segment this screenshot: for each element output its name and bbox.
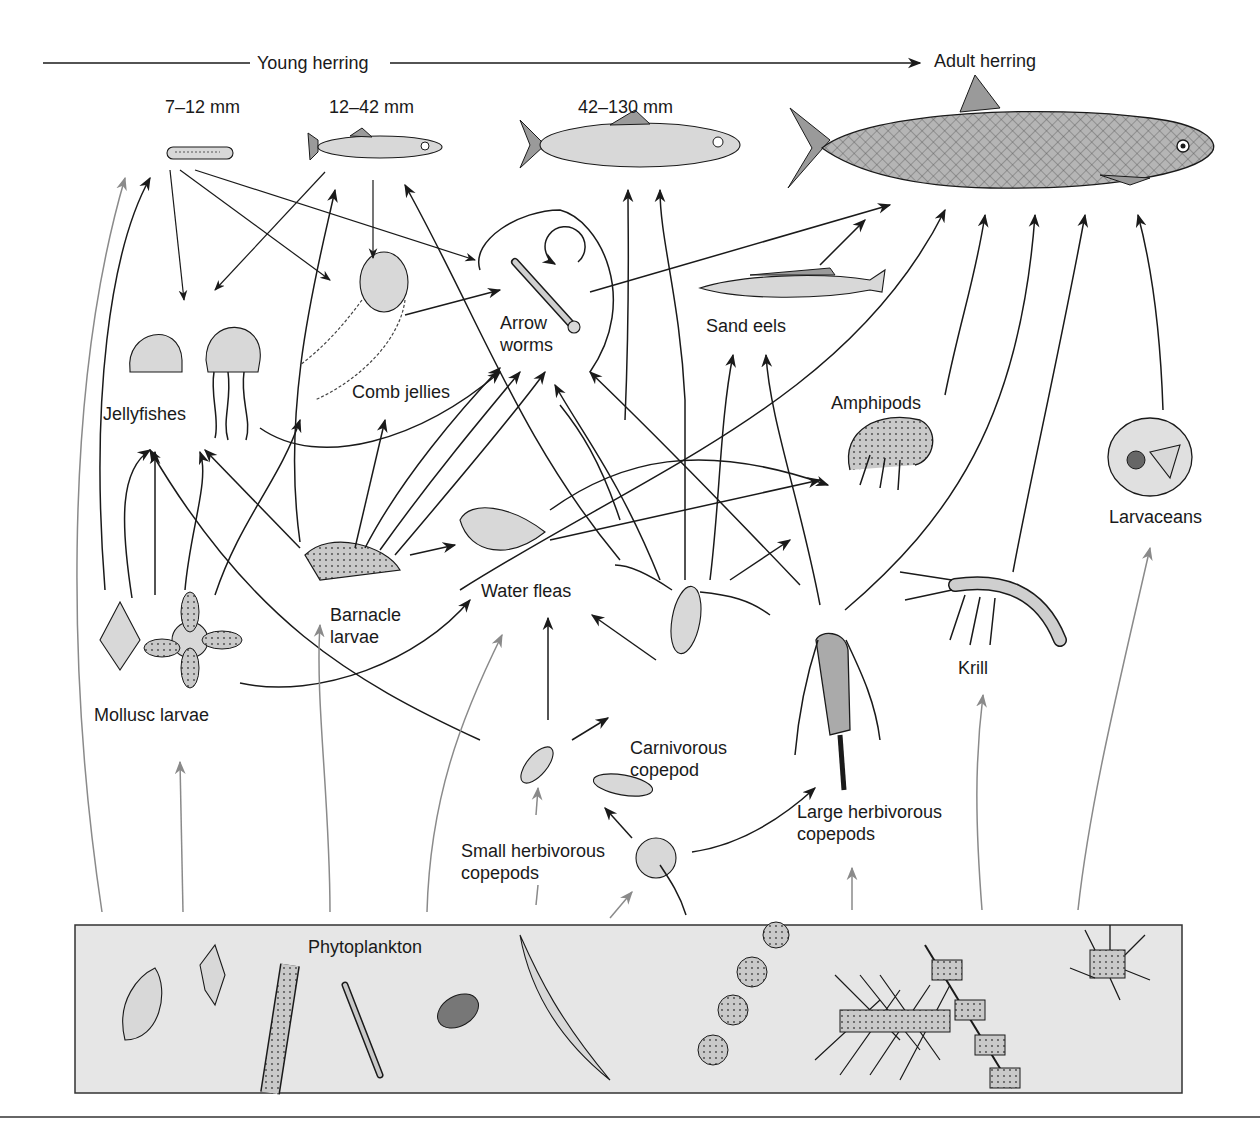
barnacle-larvae-label: Barnacle larvae — [330, 604, 401, 648]
small-herbivorous-copepods-label: Small herbivorous copepods — [461, 840, 605, 884]
stage-label-7-12mm: 7–12 mm — [165, 96, 240, 118]
carnivorous-copepod-icon — [615, 565, 770, 656]
phytoplankton-label: Phytoplankton — [308, 936, 422, 958]
barnacle-larva-icon — [305, 542, 400, 580]
larvaceans-label: Larvaceans — [1109, 506, 1202, 528]
comb-jellies-label: Comb jellies — [352, 381, 450, 403]
phytoplankton-panel — [75, 922, 1182, 1093]
stage-label-42-130mm: 42–130 mm — [578, 96, 673, 118]
amphipods-label: Amphipods — [831, 392, 921, 414]
food-web-graphics — [0, 0, 1260, 1138]
adult-herring-icon — [788, 75, 1214, 188]
larvacean-icon — [1108, 418, 1192, 496]
stage-label-12-42mm: 12–42 mm — [329, 96, 414, 118]
jellyfishes-label: Jellyfishes — [103, 403, 186, 425]
dinoflagellate-icon — [636, 838, 686, 915]
sand-eel-icon — [700, 268, 885, 297]
sand-eels-label: Sand eels — [706, 315, 786, 337]
juvenile-12-42mm-icon — [308, 128, 442, 160]
juvenile-42-130mm-icon — [520, 110, 740, 168]
water-flea-icon — [460, 508, 545, 550]
adult-herring-label: Adult herring — [934, 50, 1036, 72]
larva-7-12mm-icon — [167, 147, 233, 159]
predation-on-larvae-arrows — [170, 170, 475, 300]
amphipod-icon — [848, 417, 932, 490]
arrow-worms-label: Arrow worms — [500, 312, 553, 356]
large-herbivorous-copepods-label: Large herbivorous copepods — [797, 801, 942, 845]
carnivorous-copepod-label: Carnivorous copepod — [630, 737, 727, 781]
krill-label: Krill — [958, 657, 988, 679]
krill-icon — [900, 572, 1060, 645]
young-herring-label: Young herring — [257, 52, 368, 74]
water-fleas-label: Water fleas — [481, 580, 571, 602]
mollusc-larvae-label: Mollusc larvae — [94, 704, 209, 726]
mollusc-larvae-icon — [100, 592, 242, 688]
large-herbivorous-copepod-icon — [795, 633, 880, 790]
food-web-diagram: Young herring Adult herring 7–12 mm 12–4… — [0, 0, 1260, 1138]
small-herbivorous-copepod-icon — [515, 742, 559, 789]
